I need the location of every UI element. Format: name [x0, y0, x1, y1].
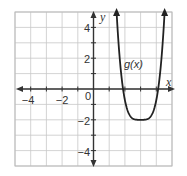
function-label-g: g(x) [124, 58, 143, 70]
origin-label: 0 [85, 90, 91, 102]
x-axis-label: x [165, 75, 172, 89]
y-tick-label-neg4: −4 [77, 146, 90, 158]
axes [16, 11, 175, 167]
y-axis-label: y [99, 10, 106, 24]
y-tick-label-2: 2 [84, 53, 90, 65]
coordinate-plane: −4 −2 0 4 2 −2 −4 x y g(x) [0, 0, 187, 176]
x-axis-left-arrow-icon [16, 86, 23, 92]
y-tick-label-4: 4 [84, 22, 90, 34]
x-tick-label-neg2: −2 [56, 94, 69, 106]
y-tick-label-neg2: −2 [77, 115, 90, 127]
x-tick-label-neg4: −4 [22, 94, 35, 106]
